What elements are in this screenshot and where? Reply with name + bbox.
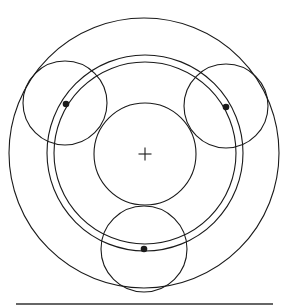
planetary-gear-diagram bbox=[0, 0, 290, 306]
planet-pin-upper-right bbox=[223, 104, 230, 111]
planet-pin-upper-left bbox=[63, 101, 70, 108]
planet-pin-bottom bbox=[141, 246, 148, 253]
